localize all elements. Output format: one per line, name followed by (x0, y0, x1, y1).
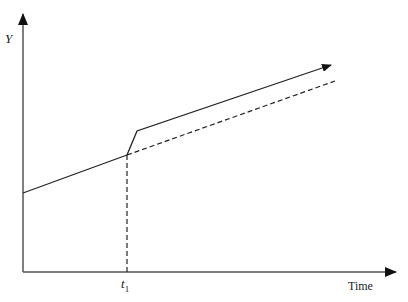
counterfactual-trend-line (127, 81, 335, 155)
baseline-trend-line (23, 155, 127, 193)
t1-label-sub: 1 (125, 284, 130, 294)
y-axis-label: Y (5, 31, 12, 47)
diagram-svg (0, 0, 408, 302)
new-trend-line (127, 65, 331, 155)
diagram-canvas: Y t1 Time (0, 0, 408, 302)
x-axis-label: Time (348, 279, 373, 294)
t1-label: t1 (121, 276, 129, 294)
